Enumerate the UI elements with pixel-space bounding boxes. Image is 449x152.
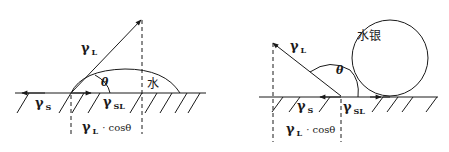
left-gamma-l-label: γL — [81, 40, 98, 57]
left-projection-label: γL· cosθ — [82, 119, 131, 136]
right-theta-label: θ — [336, 64, 344, 77]
right-theta-arc — [310, 64, 358, 97]
left-droplet-profile — [71, 69, 180, 93]
left-diagram-water: γL γS γSL θ 水 γL· cosθ — [15, 20, 206, 136]
right-gamma-s-label: γS — [297, 98, 314, 115]
right-projection-label: γL· cosθ — [286, 121, 335, 138]
left-gamma-sl-label: γSL — [103, 94, 125, 111]
right-liquid-label: 水银 — [357, 29, 381, 43]
right-gamma-l-label: γL — [290, 38, 307, 55]
left-theta-label: θ — [101, 76, 109, 89]
left-liquid-label: 水 — [147, 77, 159, 91]
right-gamma-sl-label: γSL — [343, 99, 365, 116]
right-gamma-l-vector — [273, 43, 341, 96]
left-gamma-s-label: γS — [35, 95, 52, 112]
contact-angle-diagrams: γL γS γSL θ 水 γL· cosθ — [0, 0, 449, 152]
right-diagram-mercury: γL γS γSL θ 水银 γL· cosθ — [259, 20, 438, 142]
